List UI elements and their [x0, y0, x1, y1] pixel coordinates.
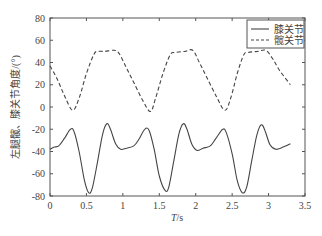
- line-chart: -80-60-40-20020406080 00.511.522.533.5 左…: [0, 0, 322, 236]
- y-tick-label: -80: [32, 191, 45, 202]
- y-tick-label: 60: [35, 35, 45, 46]
- x-tick-label: 3: [266, 200, 271, 211]
- x-tick-label: 1.5: [153, 200, 166, 211]
- y-tick-label: 80: [35, 13, 45, 24]
- hip-joint-line: [50, 50, 290, 112]
- x-tick-label: 0.5: [80, 200, 93, 211]
- legend-label: 膝关节: [274, 23, 304, 35]
- legend-label: 髋关节: [274, 34, 304, 46]
- legend: 膝关节髋关节: [247, 20, 304, 48]
- x-axis-title: T/s: [171, 212, 183, 223]
- y-tick-label: 20: [35, 79, 45, 90]
- x-tick-label: 2: [193, 200, 198, 211]
- y-axis-title: 左腿髋、膝关节角度/(°): [9, 55, 22, 158]
- data-series: [50, 50, 290, 194]
- knee-joint-line: [50, 124, 290, 194]
- y-tick-label: -40: [32, 146, 45, 157]
- y-tick-label: 40: [35, 57, 45, 68]
- y-tick-label: 0: [40, 102, 45, 113]
- x-tick-label: 2.5: [226, 200, 239, 211]
- y-tick-label: -20: [32, 124, 45, 135]
- x-tick-label: 0: [48, 200, 53, 211]
- y-tick-label: -60: [32, 168, 45, 179]
- x-tick-label: 1: [120, 200, 125, 211]
- x-tick-label: 3.5: [299, 200, 312, 211]
